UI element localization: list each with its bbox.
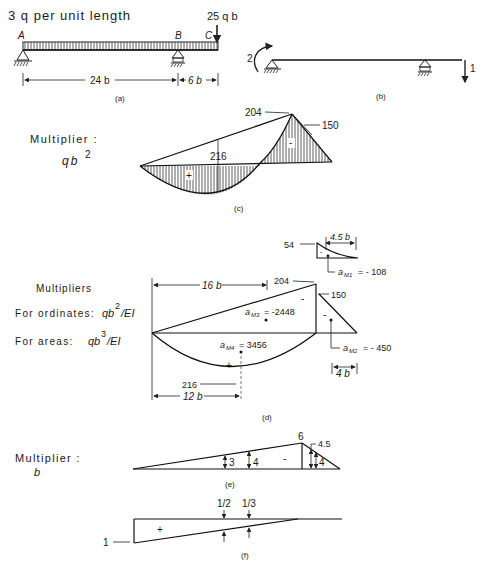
- baseline-c: [140, 162, 332, 166]
- ord-150-c: 150: [322, 120, 339, 131]
- panel-e-deflection-ordinates: Multiplier : b 6 3 4 - 4 4.5 (e): [15, 431, 340, 489]
- moment-value: 2: [247, 53, 253, 64]
- ord-4b: 4: [319, 457, 325, 468]
- panel-a-beam-loading: 3 q per unit length 25 q b A B C 24 b: [8, 8, 238, 103]
- a-m3-label: a: [245, 307, 250, 317]
- distributed-load-label: 3 q per unit length: [8, 8, 131, 23]
- span-ab-label: 24 b: [90, 75, 110, 86]
- ord-3: 3: [229, 457, 235, 468]
- dim-4-5b: 4.5 b: [330, 232, 350, 242]
- panel-b-virtual-loading: 2 1 (b): [247, 46, 476, 101]
- panel-d-m-over-ei-diagram: 4.5 b 54 - a M1 = - 108 Multipliers For …: [15, 232, 391, 422]
- multiplier-value-c: qb: [62, 154, 79, 168]
- caption-d: (d): [262, 413, 272, 422]
- point-b-label: B: [175, 30, 182, 41]
- areas-label: For areas:: [15, 336, 74, 347]
- caption-b: (b): [376, 92, 386, 101]
- a-m2-label: a: [343, 343, 348, 353]
- ord-54: 54: [284, 240, 294, 250]
- sign-plus-c: +: [186, 170, 192, 181]
- areas-tail: /EI: [106, 335, 120, 347]
- point-load-label: 25 q b: [207, 10, 238, 22]
- caption-f: (f): [241, 551, 249, 560]
- pin-support-icon: [264, 60, 281, 73]
- ord-4a: 4: [253, 457, 259, 468]
- ord-204-d: 204: [274, 276, 289, 286]
- a-m3-value: = -2448: [264, 307, 295, 317]
- sign-plus-d: +: [226, 360, 232, 371]
- sign-minus-e: -: [283, 453, 286, 464]
- dim-16b: 16 b: [202, 280, 222, 291]
- multipliers-title: Multipliers: [36, 283, 92, 294]
- multiplier-label-c: Multiplier :: [30, 133, 98, 145]
- a-m3-sub: M3: [251, 312, 260, 318]
- areas-exp: 3: [101, 329, 106, 339]
- point-c-label: C: [205, 30, 213, 41]
- ordinates-label: For ordinates:: [15, 308, 95, 319]
- ord-6: 6: [298, 431, 304, 442]
- caption-e: (e): [225, 480, 235, 489]
- dim-4b: 4 b: [336, 368, 350, 379]
- ordinates-value: qb: [102, 307, 114, 319]
- caption-c: (c): [234, 204, 244, 213]
- multiplier-exp-c: 2: [85, 149, 91, 160]
- a-m4-value: = 3456: [239, 340, 267, 350]
- ordinates-tail: /EI: [120, 307, 134, 319]
- a-m2-value: = - 450: [363, 343, 391, 353]
- ord-half: 1/2: [217, 498, 231, 509]
- roller-support-icon: [418, 60, 432, 76]
- ord-216-d: 216: [182, 380, 197, 390]
- ord-1: 1: [103, 537, 109, 548]
- multiplier-value-e: b: [34, 466, 40, 478]
- a-m1-label: a: [338, 267, 343, 277]
- multiplier-label-e: Multiplier :: [15, 452, 81, 464]
- ordinates-exp: 2: [115, 301, 120, 311]
- distributed-load-band: [23, 42, 218, 50]
- pin-support-icon: [14, 50, 32, 66]
- a-m4-sub: M4: [226, 345, 235, 351]
- span-bc-label: 6 b: [188, 75, 202, 86]
- ord-204-c: 204: [245, 107, 262, 118]
- ord-third: 1/3: [242, 498, 256, 509]
- sign-minus-d2: -: [323, 309, 326, 320]
- sign-minus-d1: -: [301, 293, 304, 304]
- a-m1-sub: M1: [344, 272, 352, 278]
- a-m4-label: a: [220, 340, 225, 350]
- panel-c-moment-diagram: Multiplier : qb 2 216 204 150 + - (c): [30, 107, 339, 213]
- sign-plus-f: +: [157, 524, 163, 535]
- dim-12b: 12 b: [183, 391, 203, 402]
- roller-support-icon: [171, 50, 185, 67]
- ord-150-d: 150: [331, 290, 346, 300]
- sign-minus-inset: -: [320, 247, 323, 256]
- a-m2-sub: M2: [349, 348, 358, 354]
- sign-minus-c: -: [289, 137, 292, 148]
- caption-a: (a): [115, 94, 125, 103]
- a-m1-value: = - 108: [358, 267, 386, 277]
- point-a-label: A: [17, 30, 25, 41]
- ord-216-c: 216: [210, 151, 227, 162]
- inset-triangle: [317, 243, 358, 258]
- panel-f-influence-diagram: 1 + 1/2 1/3 (f): [103, 498, 342, 560]
- areas-value: qb: [88, 335, 100, 347]
- force-value: 1: [470, 63, 476, 74]
- diagram-canvas: 3 q per unit length 25 q b A B C 24 b: [0, 0, 487, 565]
- ord-4-5: 4.5: [318, 439, 331, 449]
